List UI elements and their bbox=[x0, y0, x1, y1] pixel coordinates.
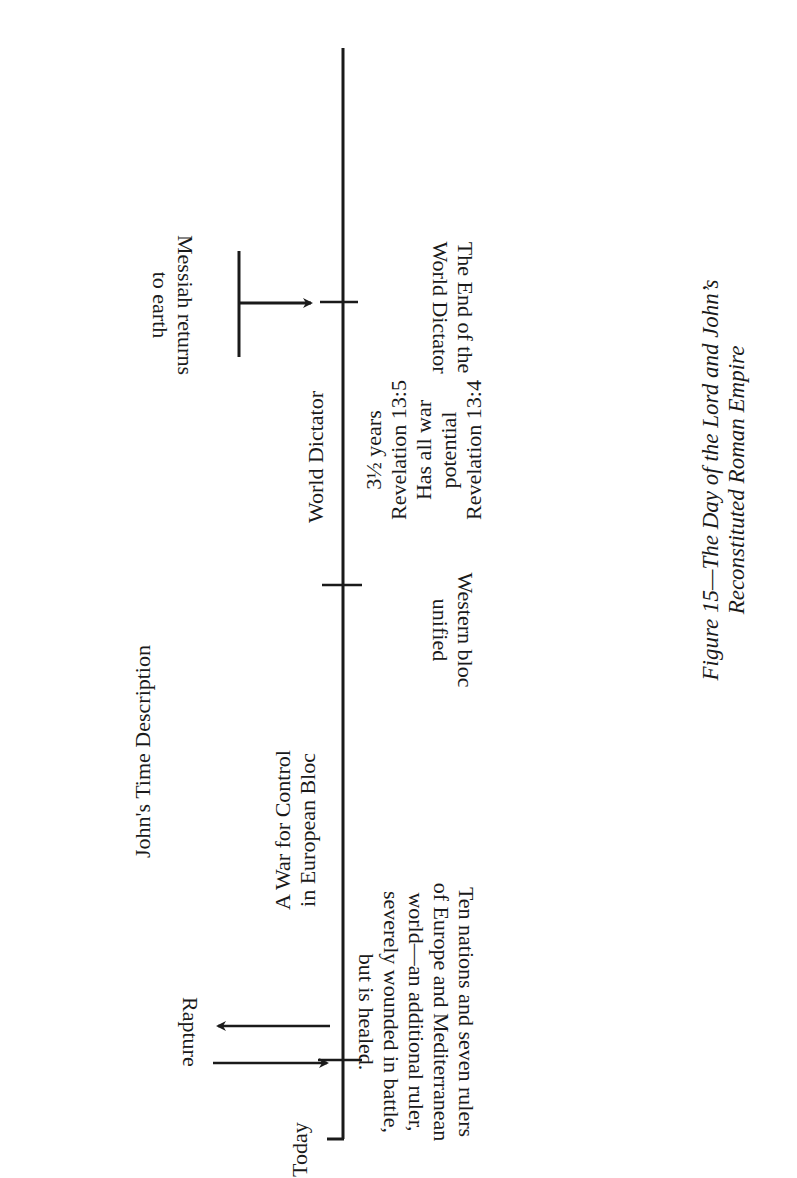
diagram-title-text: John's Time Description bbox=[130, 645, 155, 858]
event-description-end-of-dictator: The End of the World Dictator bbox=[428, 225, 478, 390]
rapture-label-text: Rapture bbox=[178, 997, 203, 1067]
messiah-label: Messiah returns to earth bbox=[148, 220, 198, 390]
event-description-rapture: Ten nations and seven rulers of Europe a… bbox=[354, 872, 479, 1152]
timeline-start-label: Today bbox=[287, 1122, 312, 1177]
event-description-western-bloc: Western bloc unified bbox=[428, 555, 478, 705]
messiah-label-line: Messiah returns bbox=[173, 220, 198, 390]
period-world-dictator: World Dictator bbox=[303, 342, 328, 572]
today-label: Today bbox=[287, 1122, 312, 1177]
event-description-line: unified bbox=[428, 555, 453, 705]
rapture-label: Rapture bbox=[178, 997, 203, 1067]
event-description-line: severely wounded in battle, bbox=[379, 872, 404, 1152]
detail-line: Revelation 13:5 bbox=[386, 325, 411, 575]
event-description-line: Ten nations and seven rulers bbox=[454, 872, 479, 1152]
event-description-line: of Europe and Mediterranean bbox=[429, 872, 454, 1152]
detail-line: 3½ years bbox=[361, 325, 386, 575]
messiah-label-line: to earth bbox=[148, 220, 173, 390]
event-description-line: Western bloc bbox=[453, 555, 478, 705]
event-description-line: world—an additional ruler, bbox=[404, 872, 429, 1152]
period-label-line: in European Bloc bbox=[295, 710, 320, 950]
diagram-title: John's Time Description bbox=[130, 645, 155, 858]
period-war-for-control: A War for Control in European Bloc bbox=[270, 710, 320, 950]
period-label-line: World Dictator bbox=[303, 391, 328, 523]
event-description-line: but is healed. bbox=[354, 872, 379, 1152]
period-label-line: A War for Control bbox=[270, 710, 295, 950]
event-description-line: World Dictator bbox=[428, 225, 453, 390]
figure-caption: Figure 15—The Day of the Lord and John’s… bbox=[698, 200, 750, 760]
caption-line: Figure 15—The Day of the Lord and John’s bbox=[698, 200, 724, 760]
event-description-line: The End of the bbox=[453, 225, 478, 390]
caption-line: Reconstituted Roman Empire bbox=[724, 200, 750, 760]
